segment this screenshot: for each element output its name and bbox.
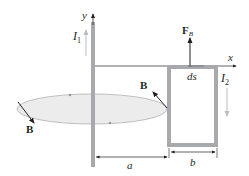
field-label-left: B bbox=[26, 123, 34, 135]
current-i2-label: I2 bbox=[220, 71, 229, 87]
force-label: FB bbox=[182, 24, 194, 38]
dimension-a-label: a bbox=[127, 159, 133, 171]
magnetic-force-diagram: y I1 x FB ds I2 B B a b bbox=[0, 0, 249, 176]
x-axis-label: x bbox=[227, 51, 233, 63]
current-i1-label: I1 bbox=[72, 29, 81, 45]
dimension-b-label: b bbox=[190, 156, 196, 168]
long-wire bbox=[91, 22, 95, 167]
ds-label: ds bbox=[187, 70, 197, 82]
field-label-right: B bbox=[140, 79, 148, 91]
y-axis-label: y bbox=[81, 9, 87, 21]
